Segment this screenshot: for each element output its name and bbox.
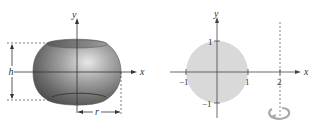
x-axis-arrowhead: [295, 70, 301, 74]
right-figure: x y −1 1 2 1 −1: [170, 8, 309, 119]
x-axis-arrowhead: [131, 70, 137, 74]
x-axis-label: x: [139, 66, 145, 77]
tick-label-y-1: 1: [208, 37, 213, 47]
tick-label-x-2: 2: [277, 77, 282, 87]
radius-arrowhead-left: [78, 110, 83, 114]
tick-label-y-neg1: −1: [202, 99, 212, 109]
y-axis-label: y: [71, 9, 77, 20]
height-arrowhead-up: [10, 44, 14, 49]
tick-label-x-neg1: −1: [179, 77, 189, 87]
figure-canvas: h y x r x y −1 1 2: [0, 0, 319, 127]
radius-label: r: [95, 106, 99, 117]
rotation-arrow-icon: [269, 108, 289, 119]
tick-label-x-1: 1: [245, 77, 250, 87]
height-label: h: [9, 66, 14, 77]
y-axis-label: y: [213, 8, 219, 19]
left-figure: h y x r: [7, 9, 145, 117]
height-arrowhead-down: [10, 94, 14, 99]
x-axis-label: x: [303, 66, 309, 77]
radius-arrowhead-right: [115, 110, 120, 114]
